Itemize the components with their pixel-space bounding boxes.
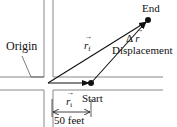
origin-leader-line: [22, 56, 44, 77]
street-lines: [0, 0, 163, 127]
delta-symbol: Δ: [126, 32, 132, 44]
r-initial-var: r: [66, 96, 70, 107]
origin-label: Origin: [6, 40, 37, 52]
displacement-diagram: [0, 0, 177, 127]
delta-r-label: Δ r: [126, 33, 140, 44]
r-initial-label: ri: [66, 96, 72, 109]
end-point: [145, 17, 151, 23]
start-point: [88, 80, 94, 86]
end-label: End: [142, 3, 160, 14]
start-label: Start: [82, 93, 103, 104]
r-initial-sub: i: [70, 101, 72, 109]
distance-label: 50 feet: [54, 115, 84, 126]
displacement-label: Displacement: [112, 45, 172, 56]
delta-r-var: r: [135, 33, 139, 44]
r-final-label: rf: [84, 40, 91, 53]
r-final-var: r: [84, 40, 88, 51]
r-final-sub: f: [88, 45, 90, 53]
